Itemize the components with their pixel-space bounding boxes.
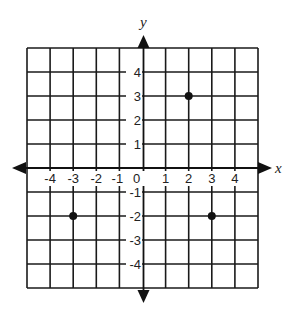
data-point	[185, 92, 193, 100]
x-tick-label: 4	[231, 171, 238, 186]
x-tick-label: -1	[112, 171, 124, 186]
x-tick-label: -3	[67, 171, 79, 186]
y-tick-label: -1	[129, 185, 141, 200]
x-tick-label: 2	[185, 171, 192, 186]
y-axis-label: y	[138, 14, 147, 30]
y-tick-label: -2	[129, 209, 141, 224]
x-tick-label: -2	[91, 171, 103, 186]
y-axis-down-arrow-icon	[138, 290, 150, 303]
x-tick-label: 1	[162, 171, 169, 186]
x-axis-left-arrow-icon	[12, 162, 26, 174]
y-tick-label: -4	[129, 257, 141, 272]
data-points	[69, 92, 216, 220]
y-tick-label: -3	[129, 233, 141, 248]
y-tick-label: 2	[134, 113, 141, 128]
x-tick-label: 0	[133, 171, 140, 186]
coordinate-plane: -4-3-2-101234 4321-1-2-3-4 x y	[0, 0, 303, 323]
x-axis-label: x	[274, 160, 282, 176]
x-tick-label: -4	[44, 171, 56, 186]
data-point	[208, 212, 216, 220]
y-axis-up-arrow-icon	[138, 35, 150, 48]
data-point	[69, 212, 77, 220]
x-tick-label: 3	[208, 171, 215, 186]
x-axis-right-arrow-icon	[258, 162, 272, 174]
y-tick-label: 4	[134, 65, 141, 80]
y-tick-label: 1	[134, 137, 141, 152]
x-tick-labels: -4-3-2-101234	[40, 171, 245, 186]
y-tick-label: 3	[134, 89, 141, 104]
